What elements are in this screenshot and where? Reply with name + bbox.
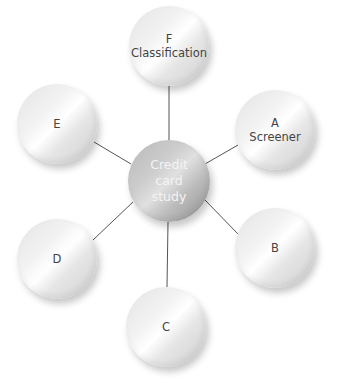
node-e: E [17,84,97,164]
node-label: Classification [131,46,207,60]
node-label: Screener [249,130,300,144]
center-label: study [152,189,187,205]
center-label: card [155,173,182,189]
node-c: C [126,287,206,367]
node-b: B [235,208,315,288]
connector-e [94,142,131,164]
connector-d [93,202,133,240]
node-label: D [53,252,62,266]
node-a-screener: A Screener [235,90,315,170]
node-d: D [17,219,97,299]
connector-c [167,222,168,287]
connector-a [205,145,238,164]
node-label: C [162,320,170,334]
node-label: A [271,116,279,130]
node-label: E [53,117,60,131]
node-label: B [271,241,279,255]
connector-b [205,200,238,234]
node-label: F [166,32,173,46]
center-label: Credit [150,157,188,173]
node-f-classification: F Classification [129,6,209,86]
center-node-credit-card-study: Credit card study [128,140,210,222]
